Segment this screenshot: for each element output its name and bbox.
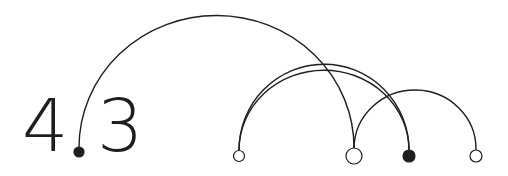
- node-4-node: [470, 150, 482, 162]
- arc-node-1-to-node-3: [239, 70, 409, 150]
- node-group: [74, 147, 482, 164]
- arc-node-2-to-node-4: [354, 90, 476, 150]
- arc-diagram: [0, 0, 508, 176]
- node-1-node: [234, 151, 245, 162]
- node-3-node: [403, 150, 415, 162]
- arc-node-1-to-node-3: [239, 64, 409, 150]
- node-2-node: [346, 148, 362, 164]
- arc-decimal-point-to-node-2: [79, 15, 354, 148]
- arc-group: [79, 15, 476, 150]
- decimal-point-node: [74, 147, 84, 157]
